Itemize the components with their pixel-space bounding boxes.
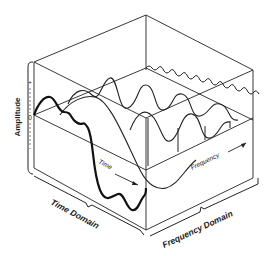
amplitude-plus-tick: + bbox=[28, 79, 32, 85]
frequency-spectrum-lines bbox=[148, 118, 230, 166]
frequency-domain-brace: Frequency Domain bbox=[150, 178, 258, 250]
amplitude-label: Amplitude bbox=[13, 97, 22, 137]
composite-waveform bbox=[34, 97, 146, 210]
amplitude-minus-tick: - bbox=[29, 145, 31, 151]
time-axis-label: Time bbox=[98, 158, 138, 185]
time-frequency-domain-diagram: Time Frequency + 0 - Amplitude Time Doma… bbox=[0, 0, 266, 256]
time-domain-label: Time Domain bbox=[49, 197, 101, 231]
fundamental-wave bbox=[60, 97, 196, 189]
amplitude-zero-tick: 0 bbox=[28, 114, 32, 121]
svg-text:Time: Time bbox=[98, 158, 114, 171]
svg-text:Frequency: Frequency bbox=[189, 151, 221, 172]
frequency-axis-label: Frequency bbox=[189, 143, 246, 172]
frequency-domain-label: Frequency Domain bbox=[161, 208, 235, 249]
amplitude-scale: + 0 - Amplitude bbox=[13, 62, 33, 174]
harmonic-wave-small bbox=[146, 66, 259, 94]
